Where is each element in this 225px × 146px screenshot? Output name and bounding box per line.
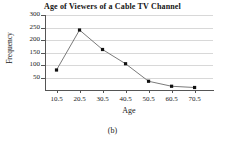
y-axis-title: Frequency: [6, 22, 14, 74]
y-axis-tick: [41, 40, 45, 41]
y-axis-line: [45, 15, 46, 91]
y-axis-tick-label: 300: [16, 11, 40, 18]
x-axis-tick: [126, 90, 127, 93]
figure-caption: (b): [0, 126, 225, 135]
y-axis-tick-label-wrap: 250: [14, 24, 40, 31]
data-point-marker: [101, 48, 104, 51]
data-point-marker: [170, 85, 173, 88]
y-axis-tick: [41, 28, 45, 29]
x-axis-tick: [149, 90, 150, 93]
y-axis-tick-label-wrap: 150: [14, 49, 40, 56]
plot-area: [45, 15, 213, 90]
figure-panel: Age of Viewers of a Cable TV Channel Fre…: [0, 0, 225, 146]
y-axis-tick: [41, 65, 45, 66]
x-axis-tick: [103, 90, 104, 93]
y-axis-tick-label: 50: [16, 74, 40, 81]
data-point-marker: [124, 62, 127, 65]
line-series: [45, 15, 213, 90]
series-line: [57, 30, 195, 88]
y-axis-tick-label: 150: [16, 49, 40, 56]
data-point-marker: [147, 80, 150, 83]
x-axis-tick: [172, 90, 173, 93]
y-axis-tick-label: 200: [16, 36, 40, 43]
x-axis-tick: [80, 90, 81, 93]
y-axis-tick: [41, 15, 45, 16]
y-axis-tick-label: 250: [16, 24, 40, 31]
y-axis-tick-label-wrap: 100: [14, 61, 40, 68]
y-axis-tick-label-wrap: 50: [14, 74, 40, 81]
x-axis-tick-label: 70.5: [182, 95, 208, 103]
data-point-marker: [193, 86, 196, 89]
y-axis-tick-label: 100: [16, 61, 40, 68]
x-axis-line: [45, 90, 214, 91]
y-axis-tick: [41, 53, 45, 54]
x-axis-title: Age: [45, 106, 213, 115]
data-point-marker: [78, 28, 81, 31]
x-axis-tick: [195, 90, 196, 93]
x-axis-tick: [57, 90, 58, 93]
y-axis-tick-label-wrap: 200: [14, 36, 40, 43]
y-axis-tick-label-wrap: 300: [14, 11, 40, 18]
data-point-marker: [55, 68, 58, 71]
y-axis-tick: [41, 78, 45, 79]
